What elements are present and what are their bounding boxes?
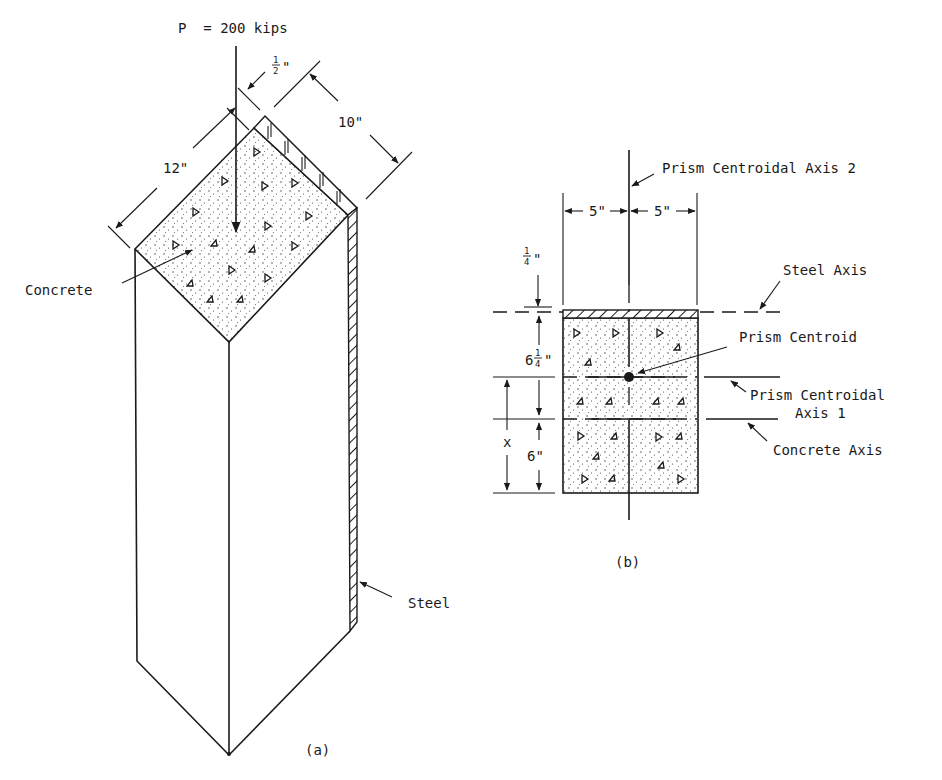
dim-concrete-half: 6" [527,423,544,490]
steel-axis-label: Steel Axis [783,262,867,278]
axis1-label-line2: Axis 1 [795,405,846,421]
concrete-label: Concrete [25,282,92,298]
figure-b-cross-section: 5" 5" Prism Centroidal Axis 2 Steel Axis… [493,150,885,570]
svg-text:1: 1 [273,55,278,65]
dim-width-label: 12" [163,160,188,176]
svg-text:": " [282,59,290,75]
dim-to-concrete-axis: 6 1 4 " [525,316,552,415]
dim-depth-label: 10" [338,114,363,130]
svg-text:x: x [503,434,511,450]
steel-section [563,310,698,318]
figure-b-caption: (b) [615,554,640,570]
svg-text:4: 4 [524,257,529,267]
concrete-section [563,318,698,493]
prism-centroid-dot [624,372,634,382]
composite-column-diagram: P = 200 kips 1 2 " 12" 10" Concret [0,0,942,780]
svg-text:6: 6 [525,352,533,368]
steel-plate-side [348,208,357,631]
dim-steel-thickness-b: 1 4 " [523,246,552,307]
concrete-axis-label: Concrete Axis [773,442,883,458]
axis1-label-line1: Prism Centroidal [750,387,885,403]
figure-a-caption: (a) [305,742,330,758]
steel-label: Steel [408,595,450,611]
svg-text:1: 1 [535,348,540,358]
figure-a-isometric-column: P = 200 kips 1 2 " 12" 10" Concret [25,20,450,758]
dim-half-width-left: 5" [589,203,606,219]
svg-text:1: 1 [524,246,529,256]
centroid-label: Prism Centroid [739,329,857,345]
svg-text:4: 4 [535,359,540,369]
dim-half-width-right: 5" [654,203,671,219]
svg-text:2: 2 [273,66,278,76]
load-label: P = 200 kips [178,20,288,36]
svg-text:": " [533,251,541,267]
axis2-label: Prism Centroidal Axis 2 [662,160,856,176]
svg-text:6": 6" [527,448,544,464]
svg-text:": " [544,352,552,368]
column-right-bottom-edge [229,631,350,755]
dim-x: x [503,380,511,490]
